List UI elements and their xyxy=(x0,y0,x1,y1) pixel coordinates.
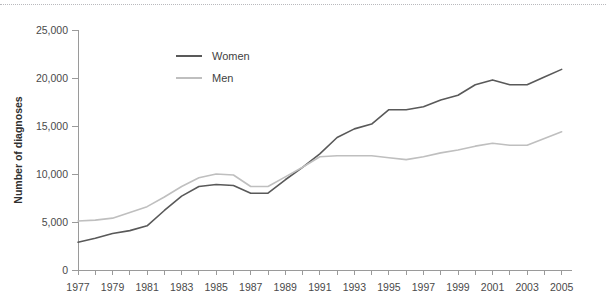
x-axis-ticks xyxy=(78,270,562,275)
y-tick-label: 25,000 xyxy=(36,24,68,36)
x-tick-label: 1997 xyxy=(412,281,436,293)
series-line-men xyxy=(78,132,562,221)
x-tick-label: 1991 xyxy=(308,281,332,293)
x-tick-label: 2003 xyxy=(515,281,539,293)
y-tick-label: 20,000 xyxy=(36,72,68,84)
x-tick-label: 1983 xyxy=(170,281,194,293)
x-tick-label: 1999 xyxy=(446,281,470,293)
x-axis-tick-labels: 1977197919811983198519871989199119931995… xyxy=(66,281,573,293)
y-axis-ticks xyxy=(72,30,78,270)
data-series-group xyxy=(78,69,562,242)
x-tick-label: 1981 xyxy=(135,281,159,293)
y-axis-tick-labels: 05,00010,00015,00020,00025,000 xyxy=(36,24,68,276)
series-line-women xyxy=(78,69,562,242)
x-tick-label: 1977 xyxy=(66,281,90,293)
line-chart: 05,00010,00015,00020,00025,000 Number of… xyxy=(0,0,606,307)
x-tick-label: 1993 xyxy=(343,281,367,293)
x-tick-label: 1979 xyxy=(101,281,125,293)
x-tick-label: 2001 xyxy=(481,281,505,293)
x-tick-label: 1985 xyxy=(205,281,229,293)
y-tick-label: 10,000 xyxy=(36,168,68,180)
x-tick-label: 1995 xyxy=(377,281,401,293)
chart-page: 05,00010,00015,00020,00025,000 Number of… xyxy=(0,0,606,307)
legend-label-women: Women xyxy=(212,50,250,62)
x-tick-label: 2005 xyxy=(550,281,574,293)
y-axis: 05,00010,00015,00020,00025,000 Number of… xyxy=(12,24,78,276)
y-tick-label: 15,000 xyxy=(36,120,68,132)
x-axis: 1977197919811983198519871989199119931995… xyxy=(66,270,573,293)
y-axis-title: Number of diagnoses xyxy=(12,96,24,204)
y-tick-label: 5,000 xyxy=(42,216,68,228)
y-tick-label: 0 xyxy=(62,264,68,276)
x-tick-label: 1989 xyxy=(274,281,298,293)
chart-legend: WomenMen xyxy=(176,50,250,84)
legend-label-men: Men xyxy=(212,72,233,84)
x-tick-label: 1987 xyxy=(239,281,263,293)
